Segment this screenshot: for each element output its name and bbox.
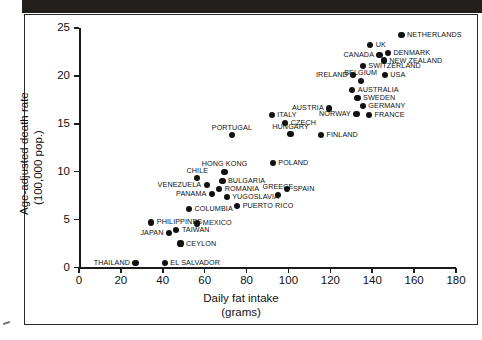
data-point-label: TAIWAN xyxy=(182,226,210,234)
y-axis-tick-label-wrap: 0 xyxy=(40,262,70,274)
data-point-label: FINLAND xyxy=(326,132,357,140)
x-axis-tick xyxy=(246,268,248,273)
x-axis-tick xyxy=(120,268,122,273)
data-point xyxy=(349,87,355,93)
data-point-label: CANADA xyxy=(343,51,374,59)
y-axis-tick-label-wrap: 25 xyxy=(40,22,70,34)
data-point xyxy=(366,112,372,118)
x-axis-tick-label: 180 xyxy=(436,274,476,286)
data-point xyxy=(177,240,183,246)
data-point xyxy=(358,78,364,84)
scatter-plot-area: 0510152025020406080100120140160180NETHER… xyxy=(0,0,482,340)
y-axis-tick xyxy=(74,75,79,77)
data-point xyxy=(224,194,230,200)
data-point xyxy=(318,132,324,138)
x-axis-tick xyxy=(330,268,332,273)
y-axis-tick-label: 0 xyxy=(40,262,70,273)
data-point xyxy=(229,132,235,138)
data-point xyxy=(275,192,281,198)
y-axis-tick-label-wrap: 20 xyxy=(40,70,70,82)
data-point-label: SPAIN xyxy=(293,185,315,193)
y-axis-tick-label: 10 xyxy=(40,166,70,177)
data-point-label: GREECE xyxy=(262,183,293,191)
data-point xyxy=(398,32,404,38)
data-point-label: YUGOSLAVIA xyxy=(232,193,279,201)
data-point-label: POLAND xyxy=(278,159,308,167)
data-point xyxy=(270,160,276,166)
x-axis-tick xyxy=(162,268,164,273)
data-point-label: BELGIUM xyxy=(344,69,377,77)
x-axis-title: Daily fat intake xyxy=(0,292,482,304)
data-point-label: PANAMA xyxy=(176,190,206,198)
data-point xyxy=(354,95,360,101)
y-axis-tick xyxy=(74,219,79,221)
data-point xyxy=(269,112,275,118)
data-point xyxy=(367,42,373,48)
y-axis-tick-label-wrap: 5 xyxy=(40,214,70,226)
x-axis-tick-label: 60 xyxy=(185,274,225,286)
data-point xyxy=(234,203,240,209)
data-point-label: NETHERLANDS xyxy=(407,31,462,39)
data-point xyxy=(166,230,172,236)
data-point xyxy=(204,182,210,188)
x-axis-units: (grams) xyxy=(0,306,482,318)
x-axis-tick xyxy=(413,268,415,273)
data-point xyxy=(162,260,168,266)
data-point-label: CHILE xyxy=(186,167,208,175)
x-axis-tick-label: 140 xyxy=(352,274,392,286)
y-axis-tick xyxy=(74,171,79,173)
data-point-label: COLUMBIA xyxy=(194,205,232,213)
x-axis-tick-label: 0 xyxy=(59,274,99,286)
x-axis-tick-label: 80 xyxy=(227,274,267,286)
data-point-label: JAPAN xyxy=(140,229,163,237)
y-axis-tick-label: 25 xyxy=(40,22,70,33)
data-point-label: IRELAND xyxy=(316,71,348,79)
data-point xyxy=(148,219,154,225)
data-point xyxy=(209,191,215,197)
y-axis-tick-label: 5 xyxy=(40,214,70,225)
data-point-label: FRANCE xyxy=(375,111,405,119)
y-axis-tick-label-wrap: 10 xyxy=(40,166,70,178)
y-axis-tick xyxy=(74,27,79,29)
figure-canvas: 0510152025020406080100120140160180NETHER… xyxy=(0,0,482,340)
y-axis-tick xyxy=(74,123,79,125)
data-point xyxy=(186,206,192,212)
x-axis-tick xyxy=(455,268,457,273)
data-point-label: AUSTRIA xyxy=(292,105,324,113)
data-point-label: UK xyxy=(376,41,386,49)
y-axis-tick-label: 15 xyxy=(40,118,70,129)
data-point xyxy=(216,186,222,192)
data-point xyxy=(173,227,179,233)
data-point xyxy=(382,72,388,78)
data-point xyxy=(132,260,138,266)
data-point xyxy=(360,103,366,109)
data-point-label: HUNGARY xyxy=(272,123,309,131)
data-point xyxy=(326,105,332,111)
data-point-label: PORTUGAL xyxy=(212,124,252,132)
y-axis-tick-label: 20 xyxy=(40,70,70,81)
x-axis-tick-label: 120 xyxy=(310,274,350,286)
x-axis-tick xyxy=(371,268,373,273)
x-axis-tick xyxy=(78,268,80,273)
x-axis-tick-label: 40 xyxy=(143,274,183,286)
data-point-label: THAILAND xyxy=(94,259,130,267)
y-axis-line xyxy=(79,28,81,268)
x-axis-line xyxy=(79,267,456,269)
data-point-label: GERMANY xyxy=(368,102,405,110)
x-axis-tick xyxy=(204,268,206,273)
x-axis-tick-label: 160 xyxy=(394,274,434,286)
x-axis-tick-label: 100 xyxy=(268,274,308,286)
data-point-label: USA xyxy=(390,71,405,79)
data-point-label: HONG KONG xyxy=(202,160,248,168)
data-point-label: VENEZUELA xyxy=(158,181,202,189)
data-point-label: CEYLON xyxy=(186,240,216,248)
y-axis-title-line2: (100,000 pop.) xyxy=(32,130,44,205)
x-axis-tick xyxy=(288,268,290,273)
y-axis-title-line1: Age-adjusted death rate xyxy=(18,92,30,215)
data-point xyxy=(287,131,293,137)
y-axis-tick-label-wrap: 15 xyxy=(40,118,70,130)
data-point-label: EL SALVADOR xyxy=(170,259,220,267)
data-point-label: PUERTO RICO xyxy=(243,202,294,210)
data-point xyxy=(353,111,359,117)
x-axis-tick-label: 20 xyxy=(101,274,141,286)
